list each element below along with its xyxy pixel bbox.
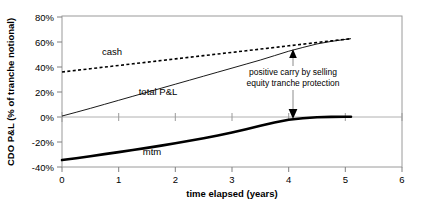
series-label-mtm: mtm [143, 146, 162, 157]
y-tick-label-neg40: -40% [32, 162, 55, 173]
y-tick-label-60: 60% [35, 37, 55, 48]
x-axis-title: time elapsed (years) [186, 188, 277, 199]
x-tick-label-1: 1 [116, 174, 121, 185]
x-tick-label-4: 4 [286, 174, 291, 185]
cdo-pl-line-chart: 80% 60% 40% 20% 0% -20% -40% 0 1 2 3 [0, 0, 422, 204]
x-tick-label-2: 2 [173, 174, 178, 185]
y-tick-label-80: 80% [35, 12, 55, 23]
annotation-text-line-1: positive carry by selling [249, 67, 337, 77]
y-axis-title: CDO P&L (% of tranche notional) [5, 18, 16, 166]
y-tick-label-0: 0% [40, 112, 54, 123]
y-tick-label-40: 40% [35, 62, 55, 73]
series-label-cash: cash [102, 46, 122, 57]
x-tick-label-6: 6 [399, 174, 404, 185]
chart-figure: 80% 60% 40% 20% 0% -20% -40% 0 1 2 3 [0, 0, 422, 204]
x-tick-label-3: 3 [229, 174, 234, 185]
annotation-text-line-2: equity tranche protection [246, 78, 339, 88]
x-tick-label-0: 0 [59, 174, 64, 185]
y-tick-label-20: 20% [35, 87, 55, 98]
series-label-total-pl: total P&L [139, 86, 178, 97]
y-tick-label-neg20: -20% [32, 137, 55, 148]
x-tick-label-5: 5 [343, 174, 348, 185]
